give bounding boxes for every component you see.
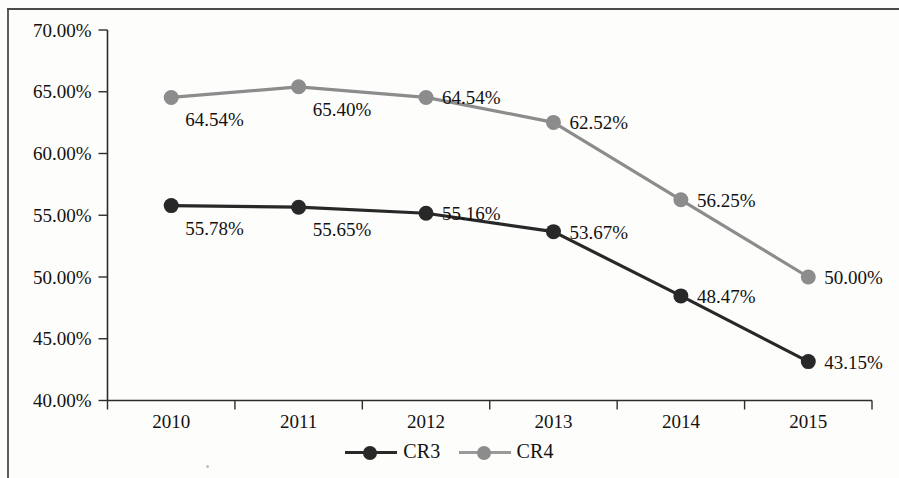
y-tick-label: 50.00% [33, 267, 92, 288]
series-line-cr3 [171, 206, 808, 362]
data-label-cr4-2010: 64.54% [185, 109, 244, 130]
data-label-cr3-2011: 55.65% [313, 219, 372, 240]
data-label-cr3-2015: 43.15% [824, 352, 883, 373]
y-axis-tick-group: 40.00%45.00%50.00%55.00%60.00%65.00%70.0… [33, 20, 108, 412]
data-point-cr3-2011 [291, 200, 306, 215]
x-tick-label: 2014 [662, 411, 701, 432]
data-label-cr3-2010: 55.78% [185, 218, 244, 239]
data-label-cr4-2013: 62.52% [569, 112, 628, 133]
x-tick-label: 2015 [789, 411, 827, 432]
data-label-cr3-2014: 48.47% [697, 286, 756, 307]
data-point-cr3-2012 [419, 206, 434, 221]
data-point-cr3-2010 [164, 198, 179, 213]
x-tick-label: 2010 [152, 411, 190, 432]
data-label-cr4-2014: 56.25% [697, 190, 756, 211]
data-point-cr4-2012 [419, 90, 434, 105]
line-chart-plot: 40.00%45.00%50.00%55.00%60.00%65.00%70.0… [0, 0, 899, 440]
x-tick-label: 2011 [280, 411, 317, 432]
legend-swatch-cr4 [459, 444, 511, 460]
data-label-cr4-2012: 64.54% [442, 87, 501, 108]
data-label-cr4-2015: 50.00% [824, 267, 883, 288]
chart-page: 40.00%45.00%50.00%55.00%60.00%65.00%70.0… [0, 0, 899, 478]
y-tick-label: 70.00% [33, 20, 92, 41]
data-point-cr4-2010 [164, 90, 179, 105]
y-tick-label: 55.00% [33, 205, 92, 226]
data-point-cr3-2014 [673, 288, 688, 303]
y-tick-label: 60.00% [33, 143, 92, 164]
data-point-cr4-2013 [546, 115, 561, 130]
legend-label-cr3: CR3 [403, 440, 440, 463]
data-point-cr4-2011 [291, 79, 306, 94]
legend-item-cr4[interactable]: CR4 [459, 440, 554, 463]
y-tick-label: 65.00% [33, 81, 92, 102]
y-tick-label: 45.00% [33, 328, 92, 349]
legend-marker-cr4 [477, 446, 491, 460]
legend-label-cr4: CR4 [517, 440, 554, 463]
data-label-cr3-2013: 53.67% [569, 222, 628, 243]
scan-speck [206, 465, 209, 468]
x-tick-label: 2013 [534, 411, 572, 432]
chart-legend: CR3 CR4 [0, 440, 899, 463]
legend-swatch-cr3 [345, 444, 397, 460]
data-point-cr4-2015 [801, 270, 816, 285]
data-point-cr3-2015 [801, 354, 816, 369]
data-label-cr3-2012: 55.16% [442, 203, 501, 224]
data-point-cr4-2014 [673, 192, 688, 207]
data-point-cr3-2013 [546, 224, 561, 239]
series-line-cr4 [171, 87, 808, 277]
data-label-cr4-2011: 65.40% [313, 99, 372, 120]
legend-item-cr3[interactable]: CR3 [345, 440, 440, 463]
x-tick-label: 2012 [407, 411, 445, 432]
legend-marker-cr3 [363, 446, 377, 460]
y-tick-label: 40.00% [33, 390, 92, 411]
x-axis-tick-group: 201020112012201320142015 [108, 401, 873, 432]
